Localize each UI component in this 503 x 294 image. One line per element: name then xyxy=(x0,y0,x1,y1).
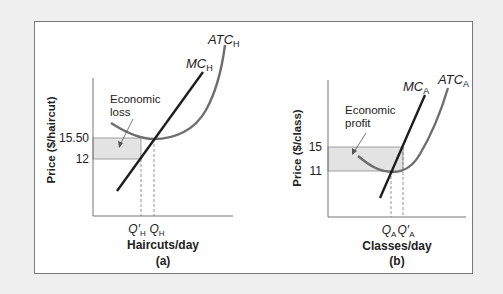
caption-a: (a) xyxy=(156,254,171,268)
economic-profit-label: Economic profit xyxy=(345,104,399,129)
curve-label-atc-h: ATCH xyxy=(207,32,240,49)
y-tick-12: 12 xyxy=(76,152,90,166)
x-tick-q-a: QA xyxy=(382,223,397,239)
y-axis-label-b: Price ($/class) xyxy=(291,109,303,187)
curve-label-atc-a: ATCA xyxy=(437,72,469,89)
x-tick-q-prime-a: Q′A xyxy=(398,223,416,239)
curve-label-mc-a: MCA xyxy=(403,79,429,96)
y-tick-11: 11 xyxy=(310,164,323,178)
curve-label-mc-h: MCH xyxy=(186,56,213,73)
economic-loss-label: Economic loss xyxy=(110,93,164,118)
y-axis-label-a: Price ($/haircut) xyxy=(45,96,57,183)
y-tick-15: 15 xyxy=(309,140,323,154)
x-tick-q-prime-h: Q′H xyxy=(128,222,146,238)
atc-h-curve xyxy=(111,45,225,139)
x-tick-q-h: QH xyxy=(149,222,164,238)
mc-h-line xyxy=(117,72,203,191)
figure: ATCH MCH Economic loss 15.50 12 Q′H QH H… xyxy=(0,0,503,294)
economic-profit-area xyxy=(328,147,403,171)
panel-b-chart xyxy=(328,80,466,217)
caption-b: (b) xyxy=(389,254,404,268)
x-axis-label-b: Classes/day xyxy=(362,239,432,253)
x-axis-label-a: Haircuts/day xyxy=(127,238,199,252)
economic-loss-area xyxy=(93,138,141,159)
y-tick-15-50: 15.50 xyxy=(59,131,89,145)
